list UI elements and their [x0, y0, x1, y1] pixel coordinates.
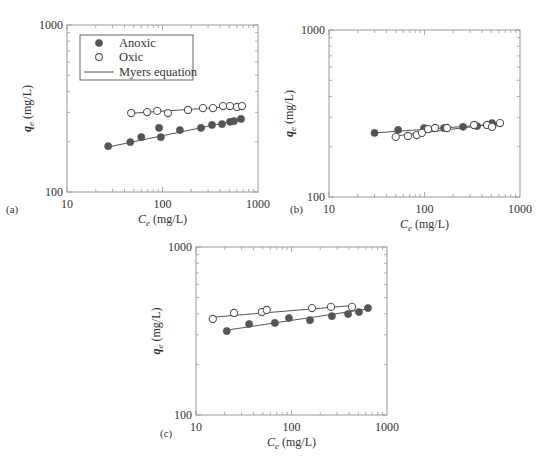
anoxic-point — [176, 126, 183, 133]
x-tick-label: 10 — [323, 202, 335, 216]
anoxic-point — [246, 320, 253, 327]
panel-label: (c) — [160, 427, 173, 440]
anoxic-point — [371, 129, 378, 136]
oxic-point — [219, 102, 226, 109]
oxic-point — [128, 109, 135, 116]
chart-panel-b: 1010010001001000Ce (mg/L)qe (mg/L)(b) — [282, 23, 532, 233]
chart-panel-a: 1010010001001000Ce (mg/L)qe (mg/L)(a)Ano… — [6, 18, 270, 228]
x-tick-label: 100 — [154, 197, 172, 211]
y-axis-label: qe (mg/L) — [282, 90, 298, 137]
x-axis-label: Ce (mg/L) — [138, 212, 187, 228]
anoxic-point — [328, 312, 335, 319]
oxic-point — [496, 120, 503, 127]
y-tick-label: 100 — [174, 408, 192, 422]
x-tick-label: 1000 — [375, 420, 399, 434]
oxic-point — [199, 104, 206, 111]
anoxic-point — [306, 317, 313, 324]
anoxic-point — [395, 126, 402, 133]
oxic-point — [348, 303, 355, 310]
y-tick-label: 1000 — [39, 18, 63, 32]
legend-anoxic-label: Anoxic — [119, 36, 156, 50]
oxic-point — [144, 108, 151, 115]
anoxic-point — [237, 115, 244, 122]
x-axis-label: Ce (mg/L) — [400, 217, 449, 233]
y-axis-label: qe (mg/L) — [20, 85, 36, 132]
legend: AnoxicOxicMyers equation — [80, 35, 198, 80]
oxic-point — [431, 124, 438, 131]
x-tick-label: 100 — [283, 420, 301, 434]
oxic-point — [488, 123, 495, 130]
oxic-point — [154, 107, 161, 114]
oxic-point — [209, 104, 216, 111]
anoxic-point — [459, 123, 466, 130]
legend-oxic-label: Oxic — [119, 50, 144, 64]
x-tick-label: 10 — [61, 197, 73, 211]
x-tick-label: 1000 — [246, 197, 270, 211]
legend-fit-label: Myers equation — [119, 65, 198, 79]
anoxic-point — [157, 134, 164, 141]
anoxic-point — [127, 138, 134, 145]
oxic-point — [404, 132, 411, 139]
panel-label: (a) — [6, 203, 19, 216]
oxic-point — [230, 309, 237, 316]
x-tick-label: 100 — [416, 202, 434, 216]
legend-anoxic-marker — [95, 39, 102, 46]
oxic-point — [470, 121, 477, 128]
y-tick-label: 100 — [307, 190, 325, 204]
anoxic-point — [208, 121, 215, 128]
panel-label: (b) — [290, 203, 303, 216]
oxic-point — [226, 102, 233, 109]
anoxic-point — [218, 121, 225, 128]
anoxic-point — [223, 327, 230, 334]
anoxic-point — [364, 304, 371, 311]
anoxic-point — [155, 124, 162, 131]
oxic-point — [238, 102, 245, 109]
y-tick-label: 1000 — [168, 240, 192, 254]
oxic-point — [164, 109, 171, 116]
oxic-point — [392, 133, 399, 140]
anoxic-point — [138, 134, 145, 141]
chart-panel-c: 1010010001001000Ce (mg/L)qe (mg/L)(c) — [149, 240, 399, 451]
oxic-point — [308, 304, 315, 311]
oxic-point — [443, 124, 450, 131]
oxic-point — [263, 306, 270, 313]
x-tick-label: 10 — [190, 420, 202, 434]
plot-frame — [329, 30, 520, 197]
y-axis-label: qe (mg/L) — [149, 308, 165, 355]
anoxic-point — [285, 314, 292, 321]
anoxic-point — [355, 308, 362, 315]
legend-oxic-marker — [96, 54, 103, 61]
x-tick-label: 1000 — [508, 202, 532, 216]
oxic-point — [184, 106, 191, 113]
x-axis-label: Ce (mg/L) — [267, 435, 316, 451]
figure-canvas: 1010010001001000Ce (mg/L)qe (mg/L)(a)Ano… — [0, 0, 550, 463]
y-tick-label: 100 — [45, 185, 63, 199]
anoxic-point — [105, 143, 112, 150]
oxic-point — [209, 315, 216, 322]
y-tick-label: 1000 — [301, 23, 325, 37]
anoxic-point — [271, 319, 278, 326]
anoxic-point — [344, 310, 351, 317]
oxic-point — [424, 126, 431, 133]
anoxic-point — [230, 117, 237, 124]
anoxic-point — [197, 124, 204, 131]
oxic-point — [327, 303, 334, 310]
